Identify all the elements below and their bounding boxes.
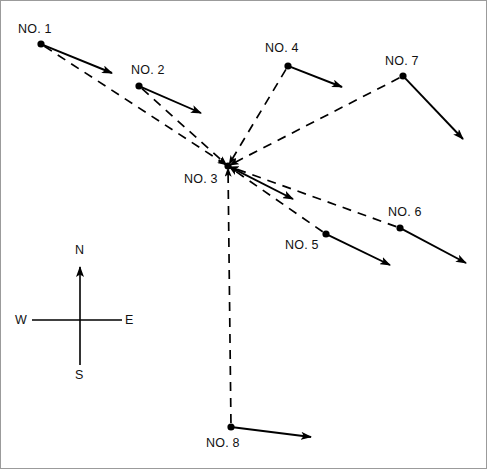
- compass-rose-lines: [32, 267, 122, 365]
- vector-arrows-group: [43, 45, 466, 437]
- station-dot-no1: [37, 40, 44, 47]
- station-dots-group: [37, 40, 406, 430]
- station-label-no8: NO. 8: [206, 436, 240, 450]
- station-label-no5: NO. 5: [285, 238, 319, 252]
- station-dot-no8: [227, 423, 234, 430]
- compass-label-north: N: [75, 243, 84, 257]
- spoke-no2-to-hub: [142, 89, 227, 165]
- vector-arrow-no5: [328, 235, 390, 265]
- compass-label-east: E: [125, 313, 133, 327]
- vector-arrow-no3: [230, 167, 293, 199]
- station-label-no2: NO. 2: [131, 63, 165, 77]
- vector-arrow-no4: [290, 67, 342, 87]
- station-label-no4: NO. 4: [265, 41, 299, 55]
- vector-arrow-no2: [141, 87, 201, 113]
- station-label-no7: NO. 7: [385, 54, 419, 68]
- vector-arrow-no8: [233, 427, 311, 437]
- station-dot-no4: [284, 62, 291, 69]
- compass-label-south: S: [75, 368, 83, 382]
- spoke-lines-group: [44, 46, 399, 423]
- diagram-canvas: [0, 0, 488, 470]
- station-dot-no7: [399, 72, 406, 79]
- station-dot-no2: [135, 82, 142, 89]
- spoke-no6-to-hub: [230, 167, 396, 227]
- spoke-no4-to-hub: [229, 69, 286, 164]
- compass-label-west: W: [15, 313, 27, 327]
- station-dot-no5: [322, 230, 329, 237]
- station-label-no3: NO. 3: [184, 172, 218, 186]
- station-dot-no6: [396, 224, 403, 231]
- vector-arrow-no7: [404, 77, 463, 139]
- station-label-no1: NO. 1: [18, 22, 52, 36]
- spoke-no5-to-hub: [230, 167, 323, 232]
- station-dot-no3: [224, 162, 231, 169]
- diagram-figure: NO. 1 NO. 2 NO. 3 NO. 4 NO. 5 NO. 6 NO. …: [0, 0, 488, 470]
- station-label-no6: NO. 6: [388, 205, 422, 219]
- vector-arrow-no6: [402, 229, 466, 263]
- spoke-no8-to-hub: [228, 168, 231, 423]
- spoke-no7-to-hub: [230, 78, 400, 165]
